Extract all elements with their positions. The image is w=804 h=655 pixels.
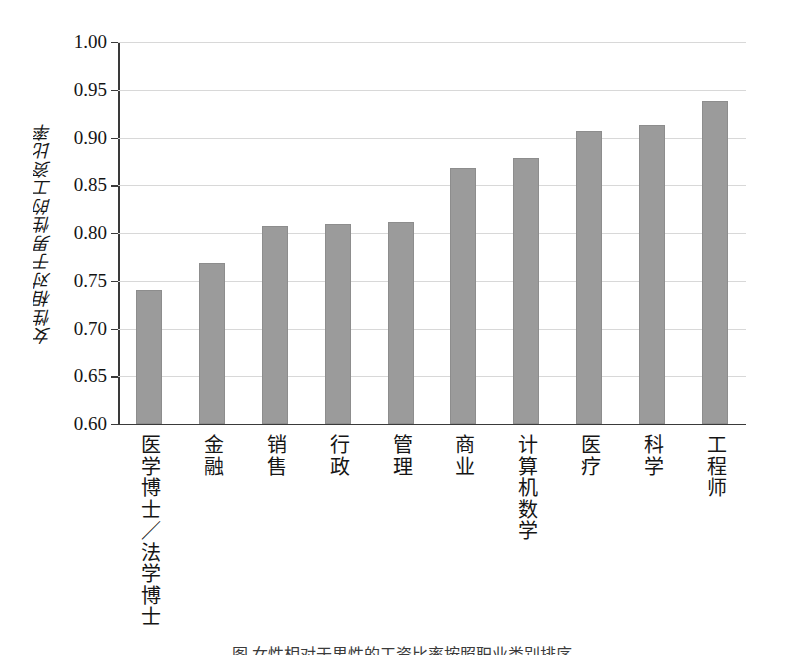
y-tick-label: 0.65 — [74, 365, 107, 387]
y-tick-label: 0.85 — [74, 174, 107, 196]
x-tick-label: 行政 — [323, 434, 353, 477]
x-tick-label-text: 商业 — [453, 434, 474, 477]
x-tick-label: 管理 — [386, 434, 416, 477]
x-tick-label: 科学 — [637, 434, 667, 477]
bar — [388, 222, 414, 424]
y-tick-mark — [111, 281, 118, 282]
bar — [199, 263, 225, 424]
x-tick-label: 商业 — [448, 434, 478, 477]
y-axis-title: 女性相对于男性的工资比率 — [28, 42, 56, 424]
figure-caption: 图 女性相对于男性的工资比率按照职业类别排序 — [0, 641, 804, 655]
y-tick-label: 0.80 — [74, 222, 107, 244]
y-axis-title-text: 女性相对于男性的工资比率 — [30, 122, 55, 344]
y-tick-mark — [111, 138, 118, 139]
x-tick-label-text: 行政 — [327, 434, 348, 477]
y-tick-mark — [111, 376, 118, 377]
y-tick-label: 0.90 — [74, 127, 107, 149]
x-tick-label: 金融 — [197, 434, 227, 477]
x-tick-label: 销售 — [260, 434, 290, 477]
bar — [576, 131, 602, 424]
y-tick-label: 0.75 — [74, 270, 107, 292]
x-tick-label: 工程师 — [700, 434, 730, 499]
y-tick-label: 0.95 — [74, 79, 107, 101]
x-tick-label-text: 医学博士／法学博士 — [139, 434, 160, 628]
bar — [450, 168, 476, 424]
x-tick-label: 医学博士／法学博士 — [134, 434, 164, 628]
bar — [513, 158, 539, 424]
x-tick-label-text: 金融 — [202, 434, 223, 477]
y-tick-mark — [111, 185, 118, 186]
gridline — [118, 90, 746, 91]
figure-container: 女性相对于男性的工资比率 0.600.650.700.750.800.850.9… — [0, 0, 804, 655]
bar — [136, 290, 162, 424]
bar — [639, 125, 665, 424]
bar — [702, 101, 728, 424]
bar — [325, 224, 351, 424]
x-tick-label: 医疗 — [574, 434, 604, 477]
y-tick-label: 0.70 — [74, 318, 107, 340]
y-tick-mark — [111, 90, 118, 91]
x-tick-label-text: 工程师 — [704, 434, 725, 499]
x-tick-label-text: 销售 — [264, 434, 285, 477]
y-tick-mark — [111, 329, 118, 330]
x-tick-label-text: 计算机数学 — [516, 434, 537, 542]
y-tick-mark — [111, 233, 118, 234]
y-tick-label: 0.60 — [74, 413, 107, 435]
y-tick-mark — [111, 42, 118, 43]
x-tick-label-text: 管理 — [390, 434, 411, 477]
gridline — [118, 42, 746, 43]
x-tick-label-text: 科学 — [641, 434, 662, 477]
bar — [262, 226, 288, 424]
y-tick-mark — [111, 424, 118, 425]
x-tick-label: 计算机数学 — [511, 434, 541, 542]
y-tick-label: 1.00 — [74, 31, 107, 53]
plot-area: 0.600.650.700.750.800.850.900.951.00 — [118, 42, 746, 424]
x-tick-label-text: 医疗 — [578, 434, 599, 477]
